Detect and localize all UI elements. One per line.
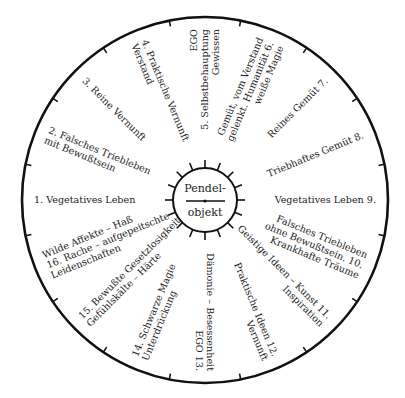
- pendulum-pivot-icon: [203, 199, 206, 202]
- segment-9: Vegetatives Leben 9.: [274, 194, 376, 205]
- segment-label-line: 4. Praktische Vernunft: [140, 38, 192, 143]
- center-label-bottom: objekt: [188, 206, 223, 219]
- segment-label-line: 3. Reine Vernunft: [80, 75, 148, 143]
- segment-label-line: EGO 13.: [194, 330, 205, 371]
- outer-tick: [303, 48, 306, 53]
- segment-label-line: Vegetatives Leben 9.: [274, 194, 376, 205]
- segment-13: Dämonie – BesessenheitEGO 13.: [194, 253, 216, 371]
- segment-7: Reines Gemüt 7.: [265, 75, 330, 140]
- segment-label-line: EGO: [188, 29, 199, 52]
- segment-label-line: Triebhaftes Gemüt 8.: [265, 129, 365, 179]
- inner-tick: [217, 230, 220, 237]
- inner-tick: [217, 163, 220, 170]
- outer-tick: [103, 48, 106, 53]
- segment-label-line: Gewissen: [210, 29, 221, 75]
- inner-tick: [168, 212, 175, 215]
- segment-1: 1. Vegetatives Leben: [34, 194, 135, 205]
- segment-5: EGO5. SelbstbehauptungGewissen: [188, 29, 221, 130]
- inner-tick: [177, 172, 183, 178]
- inner-tick: [235, 185, 242, 188]
- outer-tick: [352, 298, 357, 301]
- pendulum-wheel-diagram: Pendel- objekt 1. Vegetatives Leben2. Fa…: [0, 0, 405, 398]
- segment-label-line: 1. Vegetatives Leben: [34, 194, 135, 205]
- outer-tick: [303, 347, 306, 352]
- segment-label-line: 5. Selbstbehauptung: [199, 29, 210, 130]
- segment-3: 3. Reine Vernunft: [80, 75, 148, 143]
- outer-tick: [53, 98, 58, 101]
- outer-tick: [53, 298, 58, 301]
- center-label-top: Pendel-: [184, 182, 226, 195]
- inner-tick: [235, 212, 242, 215]
- segment-12: Praktische Ideen 12.Vernunft: [222, 261, 281, 362]
- outer-tick: [352, 98, 357, 101]
- inner-tick: [228, 223, 234, 229]
- inner-tick: [168, 185, 175, 188]
- segment-label-line: Reines Gemüt 7.: [265, 75, 330, 140]
- segment-label-line: Dämonie – Besessenheit: [205, 253, 216, 371]
- segment-8: Triebhaftes Gemüt 8.: [265, 129, 365, 179]
- inner-tick: [190, 230, 193, 237]
- inner-tick: [228, 172, 234, 178]
- inner-tick: [190, 163, 193, 170]
- outer-tick: [103, 347, 106, 352]
